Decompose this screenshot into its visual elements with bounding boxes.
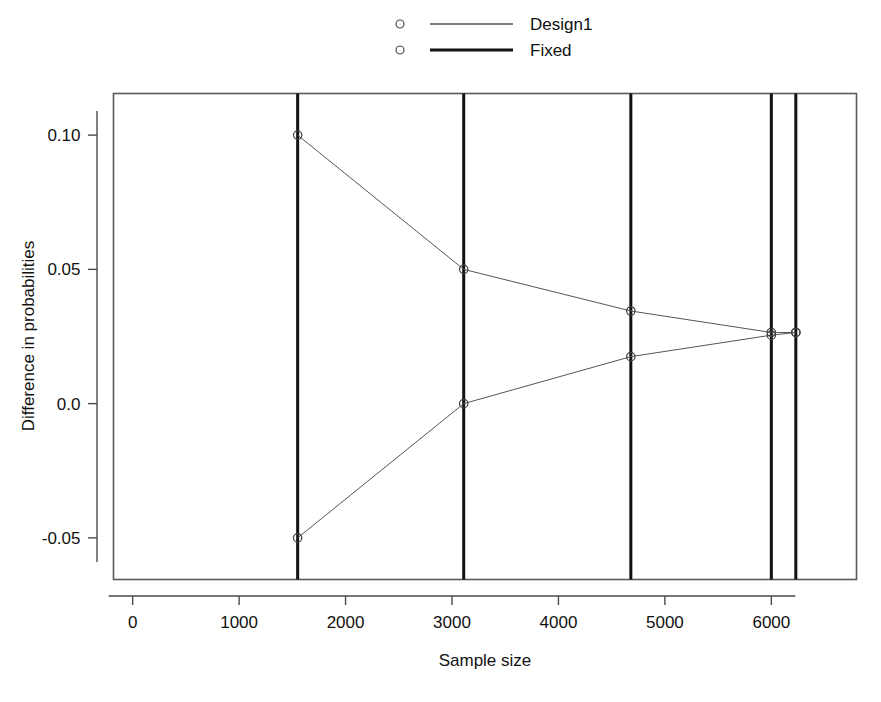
x-tick-label-1: 1000 bbox=[220, 613, 258, 632]
x-axis-title: Sample size bbox=[439, 651, 532, 670]
legend-label-0: Design1 bbox=[530, 15, 592, 34]
x-tick-label-6: 6000 bbox=[752, 613, 790, 632]
sample-size-difference-chart: Design1Fixed 0100020003000400050006000 -… bbox=[0, 0, 881, 702]
y-tick-label-0: -0.05 bbox=[42, 529, 81, 548]
y-tick-label-3: 0.10 bbox=[47, 126, 80, 145]
x-tick-label-3: 3000 bbox=[433, 613, 471, 632]
chart-page: Design1Fixed 0100020003000400050006000 -… bbox=[0, 0, 881, 702]
x-tick-label-0: 0 bbox=[128, 613, 137, 632]
x-tick-label-5: 5000 bbox=[646, 613, 684, 632]
y-axis-title: Difference in probabilities bbox=[19, 241, 38, 432]
x-tick-label-2: 2000 bbox=[327, 613, 365, 632]
x-tick-label-4: 4000 bbox=[540, 613, 578, 632]
legend-label-1: Fixed bbox=[530, 41, 572, 60]
y-tick-label-1: 0.0 bbox=[57, 395, 81, 414]
y-tick-label-2: 0.05 bbox=[47, 260, 80, 279]
